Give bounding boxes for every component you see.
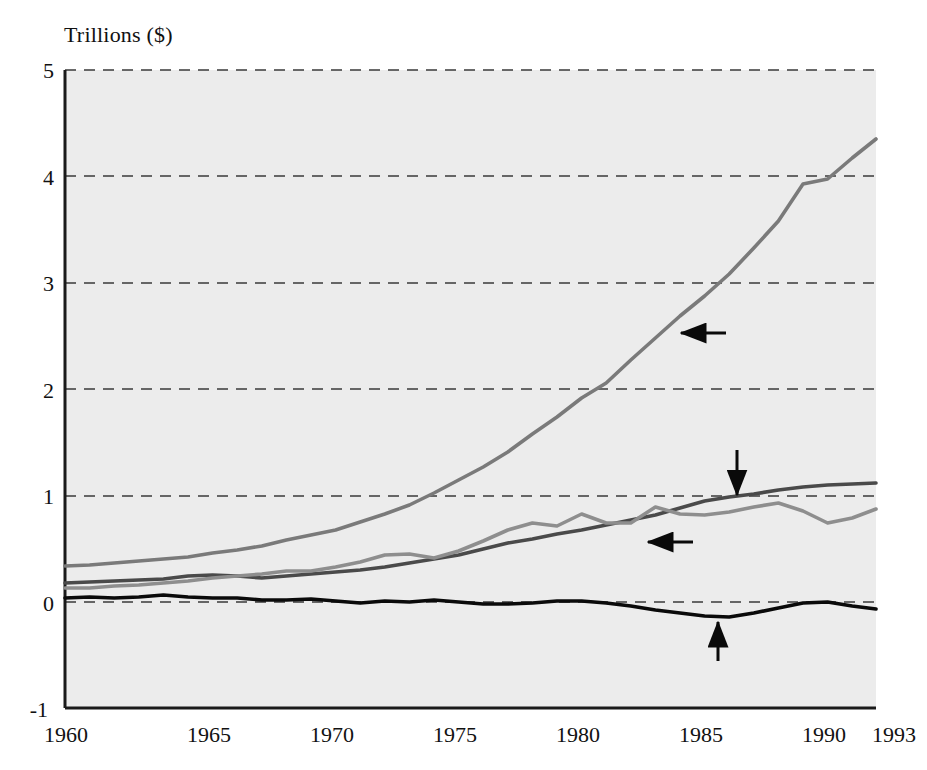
chart-figure: Trillions ($) 5 4 3 2 1 0 -1 1960 1965 1…: [0, 0, 927, 770]
plot-canvas: [0, 0, 927, 770]
